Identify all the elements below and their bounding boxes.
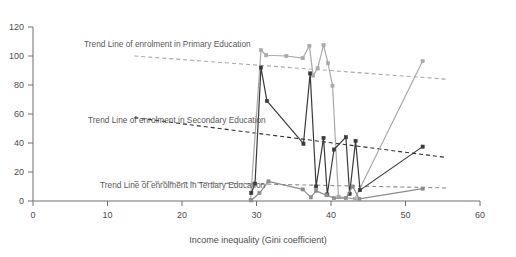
series-marker: [259, 49, 262, 52]
series-marker: [332, 197, 335, 200]
chart-plot: 020406080100120 0102030405060 Trend Line…: [0, 0, 516, 257]
series-marker: [332, 148, 335, 151]
series-marker: [353, 197, 356, 200]
series-marker: [421, 187, 424, 190]
x-tick-label: 20: [177, 210, 187, 220]
series-marker: [331, 84, 334, 87]
series-marker: [259, 66, 262, 69]
series-marker: [285, 54, 288, 57]
series-marker: [258, 191, 261, 194]
series-marker: [421, 145, 424, 148]
series-marker: [250, 191, 253, 194]
y-tick-label: 60: [14, 109, 24, 119]
series-marker: [302, 142, 305, 145]
trend-line: [134, 56, 446, 79]
series-marker: [344, 136, 347, 139]
series-marker: [315, 185, 318, 188]
series-marker: [316, 67, 319, 70]
x-axis: 0102030405060: [30, 201, 485, 220]
series-marker: [358, 189, 361, 192]
x-axis-title: Income inequality (Gini coefficient): [189, 235, 326, 245]
series-marker: [301, 188, 304, 191]
series-marker: [265, 54, 268, 57]
y-tick-label: 20: [14, 167, 24, 177]
series-marker: [265, 99, 268, 102]
series-marker: [322, 44, 325, 47]
series-marker: [322, 136, 325, 139]
series-marker: [267, 180, 270, 183]
series-marker: [309, 72, 312, 75]
series-marker: [354, 139, 357, 142]
x-tick-label: 50: [400, 210, 410, 220]
x-tick-label: 40: [326, 210, 336, 220]
series-marker: [308, 44, 311, 47]
y-tick-label: 0: [19, 196, 24, 206]
series-marker: [421, 59, 424, 62]
series-marker: [309, 196, 312, 199]
series-marker: [351, 185, 354, 188]
x-tick-label: 0: [30, 210, 35, 220]
x-tick-label: 30: [251, 210, 261, 220]
chart-container: 020406080100120 0102030405060 Trend Line…: [0, 0, 516, 257]
annotation-primary-trend-label: Trend Line of enrolment in Primary Educa…: [84, 39, 251, 49]
annotation-secondary-trend-label: Trend Line of enrolment in Secondary Edu…: [88, 115, 266, 125]
series-line: [251, 45, 423, 200]
x-tick-label: 60: [475, 210, 485, 220]
series-annotations: Trend Line of enrolment in Primary Educa…: [84, 39, 266, 190]
series-marker: [358, 197, 361, 200]
series-marker: [325, 194, 328, 197]
series-marker: [315, 189, 318, 192]
series-marker: [344, 197, 347, 200]
y-tick-label: 100: [9, 51, 24, 61]
series-marker: [250, 199, 253, 202]
annotation-tertiary-trend-label: Trend Line of enrolment in Tertiary Educ…: [100, 180, 265, 190]
y-tick-label: 80: [14, 80, 24, 90]
y-axis: 020406080100120: [9, 22, 33, 206]
y-tick-label: 120: [9, 22, 24, 32]
series-marker: [301, 57, 304, 60]
data-series: [249, 44, 424, 202]
y-tick-label: 40: [14, 138, 24, 148]
series-marker: [326, 62, 329, 65]
x-tick-label: 10: [102, 210, 112, 220]
